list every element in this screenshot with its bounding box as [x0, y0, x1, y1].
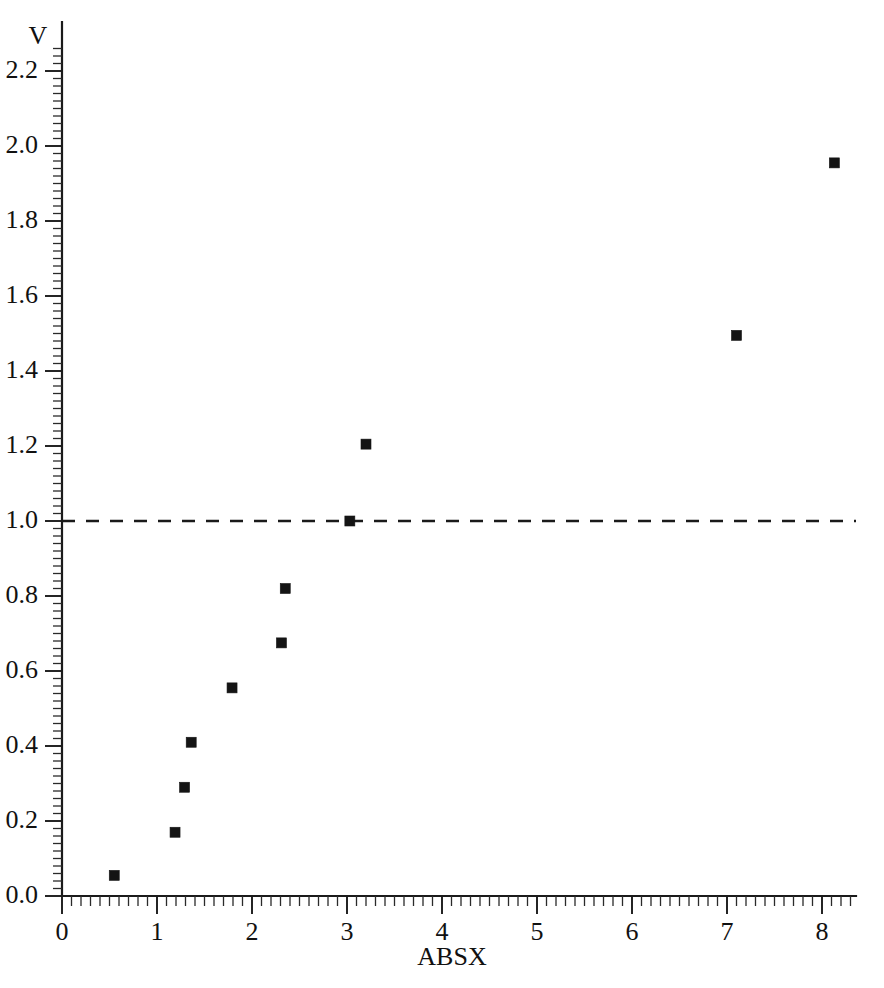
data-point	[170, 827, 180, 837]
y-tick-label: 0.8	[6, 580, 39, 609]
y-tick-label: 1.0	[6, 505, 39, 534]
x-axis: 012345678 ABSX	[56, 896, 857, 971]
x-tick-label: 6	[626, 917, 639, 946]
data-point	[361, 439, 371, 449]
data-points-group	[109, 158, 839, 881]
y-tick-label: 2.2	[6, 55, 39, 84]
x-tick-label: 5	[531, 917, 544, 946]
y-tick-label: 0.4	[6, 730, 39, 759]
y-axis: 0.00.20.40.60.81.01.21.41.61.82.02.2 V	[6, 21, 63, 909]
y-tick-label: 1.4	[6, 355, 39, 384]
x-tick-label: 3	[341, 917, 354, 946]
x-axis-title: ABSX	[417, 942, 487, 971]
data-point	[109, 870, 119, 880]
y-tick-label: 1.8	[6, 205, 39, 234]
chart-canvas: 0.00.20.40.60.81.01.21.41.61.82.02.2 V 0…	[0, 0, 884, 988]
y-tick-label: 0.0	[6, 880, 39, 909]
y-axis-minor-ticks	[53, 49, 62, 889]
x-tick-label: 7	[721, 917, 734, 946]
data-point	[829, 158, 839, 168]
scatter-plot-figure: 0.00.20.40.60.81.01.21.41.61.82.02.2 V 0…	[0, 0, 884, 988]
y-tick-label: 0.6	[6, 655, 39, 684]
data-point	[186, 737, 196, 747]
y-axis-tick-labels: 0.00.20.40.60.81.01.21.41.61.82.02.2	[6, 55, 39, 909]
x-tick-label: 1	[151, 917, 164, 946]
x-tick-label: 2	[246, 917, 259, 946]
data-point	[227, 683, 237, 693]
x-axis-minor-ticks	[72, 896, 851, 906]
data-point	[732, 330, 742, 340]
y-tick-label: 2.0	[6, 130, 39, 159]
y-axis-title: V	[29, 21, 48, 50]
x-tick-label: 0	[56, 917, 69, 946]
data-point	[276, 638, 286, 648]
data-point	[280, 584, 290, 594]
x-tick-label: 8	[816, 917, 829, 946]
y-tick-label: 1.2	[6, 430, 39, 459]
y-tick-label: 1.6	[6, 280, 39, 309]
data-point	[345, 516, 355, 526]
y-tick-label: 0.2	[6, 805, 39, 834]
data-point	[180, 782, 190, 792]
